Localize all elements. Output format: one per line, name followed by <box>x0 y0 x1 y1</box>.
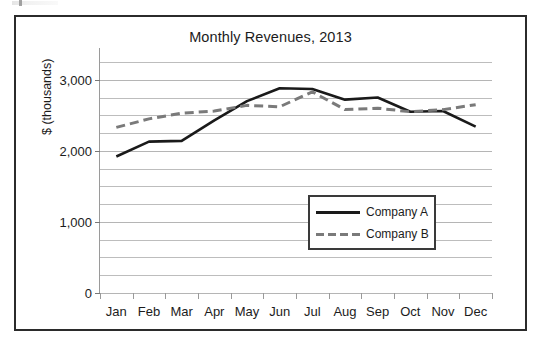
x-axis-tick-label: May <box>235 304 260 319</box>
x-axis-tick-mark <box>329 293 330 299</box>
x-axis-tick-label: Jan <box>106 304 127 319</box>
legend-item-company-a: Company A <box>316 202 432 222</box>
y-axis-tick-label: 0 <box>85 286 92 301</box>
x-axis-tick-mark <box>198 293 199 299</box>
x-axis-tick-label: Dec <box>464 304 487 319</box>
x-axis-tick-mark <box>165 293 166 299</box>
x-axis-tick-mark <box>361 293 362 299</box>
x-axis-tick-label: Nov <box>431 304 454 319</box>
y-axis-tick-label: 2,000 <box>59 143 92 158</box>
chart-frame: Monthly Revenues, 2013 $ (thousands) 01,… <box>14 15 527 331</box>
plot-area: 01,0002,0003,000 JanFebMarAprMayJunJulAu… <box>100 62 492 293</box>
x-axis-tick-mark <box>100 293 101 299</box>
x-axis-tick-mark <box>427 293 428 299</box>
chart-title: Monthly Revenues, 2013 <box>16 29 525 45</box>
x-axis-tick-mark <box>394 293 395 299</box>
x-axis-tick-mark <box>133 293 134 299</box>
series-lines <box>100 62 492 293</box>
legend-swatch-dashed-icon <box>316 228 360 240</box>
chart-screenshot: Monthly Revenues, 2013 $ (thousands) 01,… <box>0 0 543 346</box>
x-axis-tick-mark <box>263 293 264 299</box>
legend-swatch-solid-icon <box>316 206 360 218</box>
series-line-company-b <box>116 92 475 128</box>
x-axis-tick-label: Jul <box>304 304 321 319</box>
x-axis-tick-label: Feb <box>138 304 160 319</box>
legend-label-company-b: Company B <box>366 227 429 241</box>
legend: Company A Company B <box>308 195 436 250</box>
x-axis-tick-label: Apr <box>204 304 224 319</box>
scan-artifact-dot <box>19 0 22 6</box>
y-axis-tick-label: 1,000 <box>59 214 92 229</box>
legend-label-company-a: Company A <box>366 205 428 219</box>
x-axis-tick-mark <box>492 293 493 299</box>
x-axis-tick-mark <box>459 293 460 299</box>
x-axis-tick-label: Sep <box>366 304 389 319</box>
x-axis-tick-label: Aug <box>333 304 356 319</box>
x-axis-tick-label: Jun <box>269 304 290 319</box>
y-axis-tick-label: 3,000 <box>59 72 92 87</box>
x-axis-tick-label: Oct <box>400 304 420 319</box>
x-axis-tick-mark <box>231 293 232 299</box>
legend-item-company-b: Company B <box>316 224 432 244</box>
x-axis-tick-mark <box>296 293 297 299</box>
y-axis-title: $ (thousands) <box>40 59 54 135</box>
x-axis-tick-label: Mar <box>170 304 192 319</box>
